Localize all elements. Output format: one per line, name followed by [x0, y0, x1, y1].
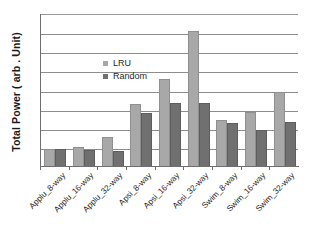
- x-axis-tick: [155, 166, 156, 170]
- x-axis-tick: [40, 166, 41, 170]
- x-axis-tick: [97, 166, 98, 170]
- x-axis-tick: [212, 166, 213, 170]
- x-axis-tick: [241, 166, 242, 170]
- x-axis-tick: [126, 166, 127, 170]
- x-axis-tick: [183, 166, 184, 170]
- x-axis-tick: [69, 166, 70, 170]
- chart-figure: Total Power ( arb . Unit) LRU Random App…: [0, 0, 311, 226]
- x-axis-tick: [269, 166, 270, 170]
- x-axis-tick-labels: Applu_8-wayApplu_16-wayApplu_32-wayApsi_…: [0, 0, 311, 226]
